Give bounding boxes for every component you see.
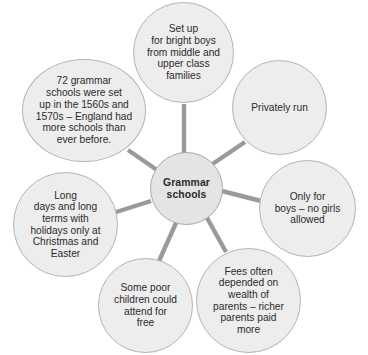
spoke-to-right (222, 191, 261, 201)
spoke-to-top-right (211, 142, 245, 165)
branch-node-top-label: Set up for bright boys from middle and u… (147, 23, 220, 81)
spoke-to-bottom-right (206, 216, 226, 252)
branch-node-top[interactable]: Set up for bright boys from middle and u… (133, 2, 234, 103)
mind-map-diagram: Set up for bright boys from middle and u… (0, 0, 368, 355)
branch-node-top-left-label: 72 grammar schools were set up in the 15… (36, 75, 132, 145)
spoke-to-bottom (159, 223, 176, 261)
branch-node-top-left[interactable]: 72 grammar schools were set up in the 15… (22, 59, 146, 162)
branch-node-bottom-label: Some poor children could attend for free (114, 282, 177, 329)
branch-node-right-label: Only for boys – no girls allowed (275, 191, 341, 226)
branch-node-bottom-right[interactable]: Fees often depended on wealth of parents… (196, 248, 301, 353)
branch-node-bottom[interactable]: Some poor children could attend for free (98, 258, 193, 353)
center-node-label: Grammar schools (163, 177, 210, 201)
branch-node-top-right[interactable]: Privately run (232, 60, 327, 155)
branch-node-left-label: Long days and long terms with holidays o… (30, 190, 100, 260)
branch-node-top-right-label: Privately run (251, 102, 308, 114)
branch-node-bottom-right-label: Fees often depended on wealth of parents… (213, 266, 284, 336)
branch-node-right[interactable]: Only for boys – no girls allowed (259, 160, 356, 257)
branch-node-left[interactable]: Long days and long terms with holidays o… (13, 172, 118, 277)
spoke-to-left (113, 201, 151, 213)
spoke-to-top-left (128, 150, 157, 170)
center-node[interactable]: Grammar schools (150, 152, 223, 225)
